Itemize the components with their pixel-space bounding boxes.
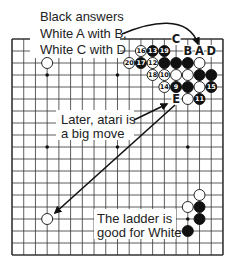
move-number: 17 bbox=[136, 59, 145, 67]
point-letter-e: E bbox=[172, 92, 180, 106]
black-stone: 17 bbox=[135, 58, 146, 69]
white-stone bbox=[194, 190, 205, 201]
black-stone: 19 bbox=[159, 46, 170, 57]
stone-disc bbox=[194, 82, 205, 93]
white-stone bbox=[182, 202, 193, 213]
stone-disc bbox=[182, 82, 193, 93]
stone-disc bbox=[171, 70, 182, 81]
stone-disc bbox=[182, 226, 193, 237]
black-stone bbox=[182, 226, 193, 237]
black-stone: 13 bbox=[147, 46, 158, 57]
bottom-annotation-line-1: The ladder is bbox=[97, 211, 173, 226]
white-stone bbox=[42, 214, 53, 225]
stone-disc bbox=[194, 214, 205, 225]
top-annotation-line-1: Black answers bbox=[40, 9, 124, 24]
point-letter-a: A bbox=[195, 44, 204, 58]
white-stone bbox=[182, 70, 193, 81]
black-stone bbox=[206, 70, 217, 81]
top-annotation-line-3: White C with D bbox=[40, 42, 126, 57]
star-point bbox=[186, 145, 190, 149]
stone-disc bbox=[206, 70, 217, 81]
white-stone: 10 bbox=[159, 70, 170, 81]
stone-disc bbox=[194, 202, 205, 213]
star-point bbox=[45, 145, 49, 149]
move-number: 18 bbox=[148, 71, 158, 79]
stone-disc bbox=[194, 58, 205, 69]
stone-disc bbox=[182, 70, 193, 81]
bottom-annotation-line-2: good for White bbox=[97, 225, 182, 240]
stone-disc bbox=[182, 58, 193, 69]
black-stone bbox=[194, 214, 205, 225]
point-letters: CBADE bbox=[172, 32, 216, 106]
white-stone bbox=[194, 58, 205, 69]
move-number: 20 bbox=[125, 59, 135, 67]
white-stone: 14 bbox=[159, 82, 170, 93]
stone-disc bbox=[182, 202, 193, 213]
bottom-annotation: The ladder is good for White bbox=[97, 211, 182, 240]
star-point bbox=[45, 73, 49, 77]
white-stone bbox=[194, 82, 205, 93]
point-letter-b: B bbox=[183, 44, 192, 58]
middle-annotation-line-1: Later, atari is bbox=[61, 112, 136, 127]
white-stone bbox=[171, 70, 182, 81]
stone-disc bbox=[182, 94, 193, 105]
move-number: 15 bbox=[207, 83, 217, 91]
black-stone: 15 bbox=[206, 82, 217, 93]
white-stone: 12 bbox=[147, 58, 158, 69]
star-point bbox=[186, 217, 190, 221]
black-stone: 9 bbox=[171, 82, 182, 93]
black-stone bbox=[194, 202, 205, 213]
white-stone: 20 bbox=[124, 58, 135, 69]
white-stone: 16 bbox=[135, 46, 146, 57]
stone-disc bbox=[159, 58, 170, 69]
move-number: 14 bbox=[160, 83, 170, 91]
white-stone bbox=[42, 58, 53, 69]
stone-disc bbox=[42, 214, 53, 225]
move-number: 19 bbox=[160, 47, 170, 55]
stone-disc bbox=[42, 58, 53, 69]
star-point bbox=[116, 145, 120, 149]
point-letter-d: D bbox=[206, 44, 216, 58]
go-board-diagram: CBADE 16131920171218101491511 Black answ… bbox=[0, 0, 234, 270]
move-number: 11 bbox=[195, 95, 205, 103]
black-stone bbox=[159, 58, 170, 69]
white-stone: 18 bbox=[147, 70, 158, 81]
top-annotation-line-2: White A with B, bbox=[40, 26, 127, 41]
stone-disc bbox=[194, 190, 205, 201]
move-number: 9 bbox=[174, 83, 179, 91]
black-stone: 11 bbox=[194, 94, 205, 105]
move-number: 12 bbox=[148, 59, 157, 67]
middle-annotation-line-2: a big move bbox=[61, 126, 125, 141]
stone-disc bbox=[171, 58, 182, 69]
stone-disc bbox=[194, 70, 205, 81]
move-number: 10 bbox=[160, 71, 170, 79]
white-stone bbox=[182, 94, 193, 105]
top-annotation: Black answers White A with B, White C wi… bbox=[40, 9, 127, 57]
point-letter-c: C bbox=[172, 32, 180, 46]
move-number: 16 bbox=[136, 47, 146, 55]
arrow-to-a bbox=[122, 23, 198, 44]
black-stone bbox=[182, 82, 193, 93]
black-stone bbox=[182, 58, 193, 69]
black-stone bbox=[194, 70, 205, 81]
move-number: 13 bbox=[148, 47, 157, 55]
star-point bbox=[116, 73, 120, 77]
black-stone bbox=[171, 58, 182, 69]
